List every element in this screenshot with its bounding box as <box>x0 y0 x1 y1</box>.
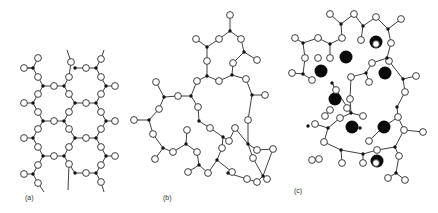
silicon-atom-icon <box>184 142 187 145</box>
oxygen-atom-icon <box>315 35 322 42</box>
oxygen-atom-icon <box>321 139 328 146</box>
oxygen-atom-icon <box>98 91 105 98</box>
silicon-atom-icon <box>380 126 383 129</box>
oxygen-atom-icon <box>373 160 380 167</box>
oxygen-atom-icon <box>262 92 269 99</box>
oxygen-atom-icon <box>205 170 212 177</box>
silicon-atom-icon <box>385 56 388 59</box>
oxygen-atom-icon <box>98 126 105 133</box>
oxygen-atom-icon <box>327 55 334 62</box>
oxygen-atom-icon <box>254 179 261 186</box>
oxygen-atom-icon <box>360 113 367 120</box>
silicon-atom-icon <box>104 84 107 87</box>
oxygen-atom-icon <box>322 113 329 120</box>
oxygen-atom-icon <box>309 77 316 84</box>
oxygen-atom-icon <box>309 157 316 164</box>
silicon-atom-icon <box>221 135 224 138</box>
oxygen-atom-icon <box>98 179 105 186</box>
oxygen-atom-icon <box>347 96 354 103</box>
oxygen-atom-icon <box>254 57 261 64</box>
oxygen-atom-icon <box>131 117 138 124</box>
oxygen-atom-icon <box>170 149 177 156</box>
oxygen-atom-icon <box>245 117 252 124</box>
oxygen-atom-icon <box>194 78 201 85</box>
panel-c-modified-network <box>289 11 427 184</box>
oxygen-atom-icon <box>374 147 381 154</box>
oxygen-atom-icon <box>402 89 409 96</box>
oxygen-atom-icon <box>21 65 28 72</box>
silicon-atom-icon <box>62 119 65 122</box>
oxygen-atom-icon <box>153 79 160 86</box>
oxygen-atom-icon <box>66 91 73 98</box>
silicon-atom-icon <box>330 81 333 84</box>
oxygen-atom-icon <box>226 138 233 145</box>
oxygen-atom-icon <box>66 144 73 151</box>
silicon-atom-icon <box>301 72 304 75</box>
silicon-atom-icon <box>104 119 107 122</box>
silicon-atom-icon <box>215 158 218 161</box>
silicon-atom-icon <box>94 136 97 139</box>
silicon-atom-icon <box>364 71 367 74</box>
oxygen-atom-icon <box>385 175 392 182</box>
oxygen-atom-icon <box>339 35 346 42</box>
oxygen-atom-icon <box>402 177 409 184</box>
oxygen-atom-icon <box>207 125 214 132</box>
oxygen-atom-icon <box>21 171 28 178</box>
oxygen-atom-icon <box>35 162 42 169</box>
oxygen-atom-icon <box>35 126 42 133</box>
oxygen-atom-icon <box>327 11 334 18</box>
cation-icon <box>340 51 353 64</box>
silicon-atom-icon <box>246 142 249 145</box>
oxygen-atom-icon <box>112 153 119 160</box>
silicon-atom-icon <box>394 171 397 174</box>
oxygen-atom-icon <box>35 109 42 116</box>
silicon-atom-icon <box>228 29 231 32</box>
silicon-atom-icon <box>73 136 76 139</box>
silicon-atom-icon <box>306 124 309 127</box>
oxygen-atom-icon <box>66 126 73 133</box>
silicon-atom-icon <box>104 154 107 157</box>
bond-line <box>341 150 363 154</box>
oxygen-atom-icon <box>35 144 42 151</box>
silicon-atom-icon <box>73 171 76 174</box>
panel-a-label: (a) <box>25 194 34 202</box>
oxygen-atom-icon <box>413 73 420 80</box>
oxygen-atom-icon <box>83 100 90 107</box>
cation-icon <box>346 121 359 134</box>
cation-icon <box>315 65 328 78</box>
oxygen-atom-icon <box>401 127 408 134</box>
oxygen-atom-icon <box>35 180 42 187</box>
oxygen-atom-icon <box>66 161 73 168</box>
oxygen-atom-icon <box>243 76 250 83</box>
cation-icon <box>378 121 391 134</box>
oxygen-atom-icon <box>366 138 373 145</box>
silicon-atom-icon <box>242 50 245 53</box>
silicon-atom-icon <box>41 84 44 87</box>
oxygen-atom-icon <box>360 160 367 167</box>
silicon-atom-icon <box>393 145 396 148</box>
oxygen-atom-icon <box>358 37 365 44</box>
oxygen-atom-icon <box>229 169 236 176</box>
oxygen-atom-icon <box>351 11 358 18</box>
silicon-atom-icon <box>230 73 233 76</box>
oxygen-atom-icon <box>369 60 376 67</box>
silicon-atom-icon <box>62 84 65 87</box>
panel-b-label: (b) <box>163 194 172 202</box>
oxygen-atom-icon <box>292 35 299 42</box>
silicon-atom-icon <box>301 41 304 44</box>
oxygen-atom-icon <box>395 114 402 121</box>
silicon-atom-icon <box>197 163 200 166</box>
oxygen-atom-icon <box>98 109 105 116</box>
silicon-atom-icon <box>250 93 253 96</box>
oxygen-atom-icon <box>204 58 211 65</box>
oxygen-atom-icon <box>254 147 261 154</box>
oxygen-atom-icon <box>98 162 105 169</box>
silicon-atom-icon <box>328 42 331 45</box>
oxygen-atom-icon <box>21 100 28 107</box>
silicon-atom-icon <box>41 119 44 122</box>
oxygen-atom-icon <box>68 59 75 66</box>
silicon-atom-icon <box>41 154 44 157</box>
silicon-atom-icon <box>361 24 364 27</box>
oxygen-atom-icon <box>316 156 323 163</box>
oxygen-atom-icon <box>348 74 355 81</box>
